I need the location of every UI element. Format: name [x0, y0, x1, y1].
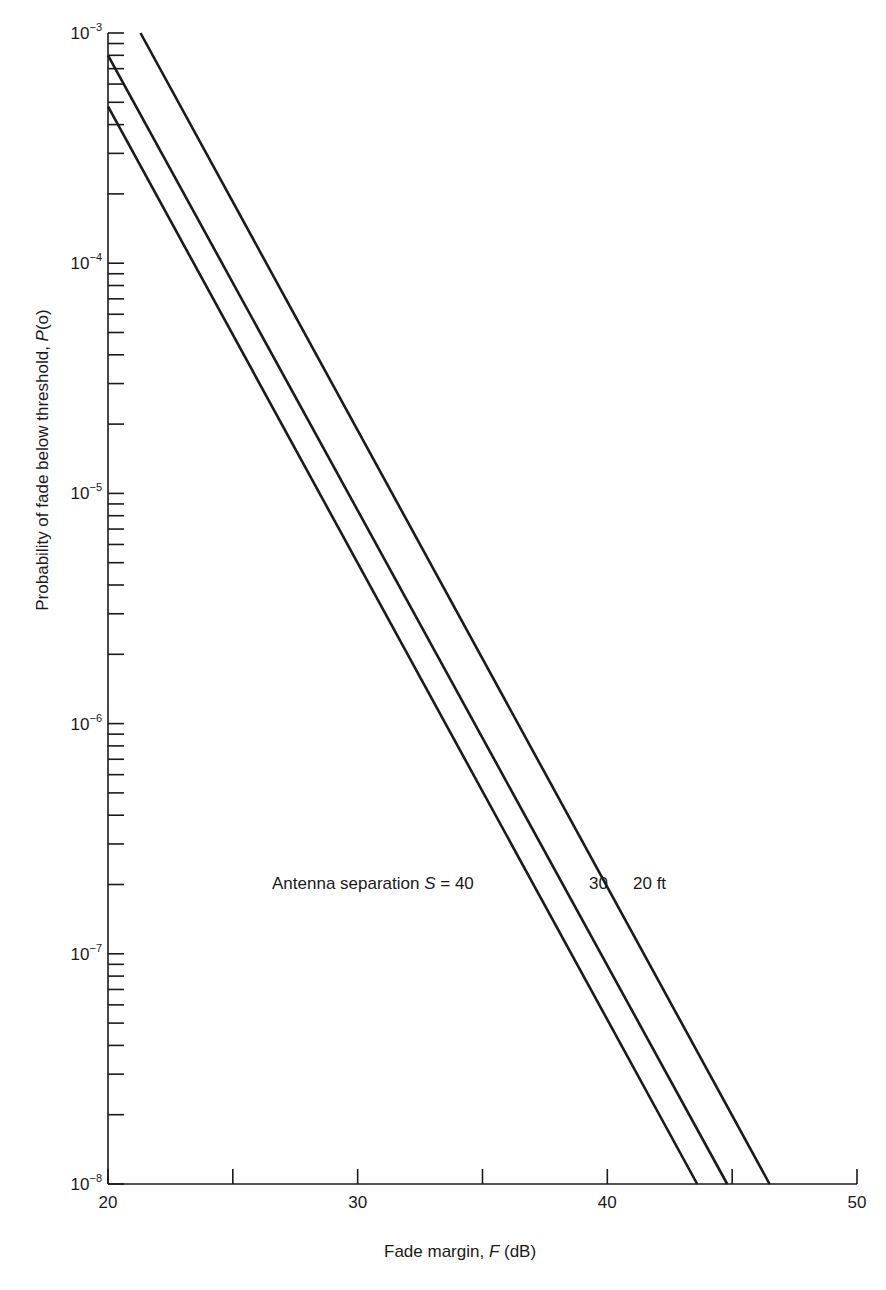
x-axis-label-suffix: (dB) — [499, 1242, 536, 1261]
annotation-s20: 20 ft — [633, 874, 666, 894]
x-tick-label: 30 — [338, 1193, 378, 1213]
annotation-s30: 30 — [589, 874, 608, 894]
y-axis-label-suffix: (o) — [33, 309, 52, 330]
series-line-s-20-ft — [141, 33, 770, 1184]
x-tick-label: 20 — [88, 1193, 128, 1213]
y-tick-label: 10−4 — [42, 251, 102, 274]
annotation-s40: Antenna separation S = 40 — [272, 874, 474, 894]
y-axis-label-var: P — [33, 330, 52, 341]
annotation-var: S — [424, 874, 435, 893]
series-lines — [108, 33, 770, 1184]
series-line-s-30-ft — [108, 55, 727, 1184]
axes — [108, 33, 857, 1184]
y-tick-label: 10−7 — [42, 942, 102, 965]
x-axis-label-var: F — [489, 1242, 499, 1261]
chart-canvas — [0, 0, 886, 1290]
y-tick-label: 10−8 — [42, 1172, 102, 1195]
y-tick-label: 10−3 — [42, 21, 102, 44]
x-axis-label: Fade margin, F (dB) — [384, 1242, 536, 1262]
x-axis-label-text: Fade margin, — [384, 1242, 489, 1261]
annotation-value-40: = 40 — [436, 874, 474, 893]
y-axis-label-text: Probability of fade below threshold, — [33, 341, 52, 610]
annotation-prefix: Antenna separation — [272, 874, 424, 893]
x-tick-label: 50 — [837, 1193, 877, 1213]
x-tick-label: 40 — [587, 1193, 627, 1213]
y-tick-label: 10−6 — [42, 712, 102, 735]
series-line-s-40-ft — [108, 106, 697, 1184]
y-axis-label: Probability of fade below threshold, P(o… — [33, 309, 53, 610]
